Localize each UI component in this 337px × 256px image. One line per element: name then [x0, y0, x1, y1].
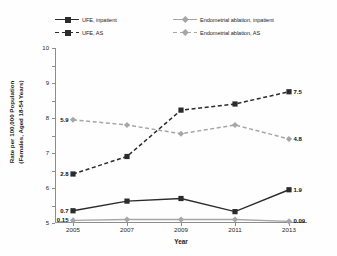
x-tick-label: 2005	[66, 226, 80, 233]
legend-item-ufe-as[interactable]: UFE, AS	[55, 26, 173, 39]
data-point-marker	[70, 217, 76, 223]
y-tick-label: 8	[46, 115, 49, 121]
x-tick-label: 2011	[228, 226, 241, 233]
data-point-marker	[232, 216, 238, 222]
legend-label: Endometrial ablation, AS	[200, 30, 260, 36]
data-point-marker	[286, 136, 292, 142]
y-axis-title: Rate per 100,000 Population (Females, Ag…	[8, 62, 25, 182]
x-tick-label: 2013	[282, 226, 296, 233]
data-point-marker	[70, 117, 76, 123]
x-tick-label: 2007	[120, 226, 134, 233]
y-axis-title-line2: (Females, Aged 18-54 Years)	[17, 80, 24, 163]
data-point-marker	[232, 209, 237, 214]
y-tick-label: 7	[46, 150, 49, 156]
x-axis-title: Year	[55, 238, 307, 245]
y-tick-label: 6	[46, 185, 49, 191]
data-point-marker	[124, 216, 130, 222]
data-point-marker	[70, 208, 75, 213]
chart-legend: UFE, inpatient Endometrial ablation, inp…	[55, 13, 325, 39]
data-point-marker	[232, 101, 237, 106]
legend-key-dash-dark-square	[55, 28, 79, 37]
data-point-marker	[286, 218, 292, 224]
data-point-label-start: 0.7	[60, 208, 68, 214]
data-point-marker	[124, 154, 129, 159]
plot-area: 012345678910 20052007200920112013 0.71.9…	[55, 48, 307, 223]
legend-key-solid-light-diamond	[173, 15, 197, 24]
legend-item-endometrial-ablation-as[interactable]: Endometrial ablation, AS	[173, 26, 325, 39]
data-point-marker	[286, 89, 291, 94]
data-point-label-start: 2.8	[60, 171, 68, 177]
data-point-marker	[178, 216, 184, 222]
chart-figure: UFE, inpatient Endometrial ablation, inp…	[0, 0, 337, 256]
data-point-marker	[124, 122, 130, 128]
data-point-label-start: 0.15	[57, 217, 69, 223]
data-point-label-end: 1.9	[294, 187, 302, 193]
data-point-marker	[286, 187, 291, 192]
data-point-marker	[232, 122, 238, 128]
legend-key-solid-dark-square	[55, 15, 79, 24]
legend-label: UFE, inpatient	[82, 17, 117, 23]
data-point-label-end: 0.09	[294, 218, 306, 224]
y-axis-title-line1: Rate per 100,000 Population	[8, 81, 15, 164]
legend-item-endometrial-ablation-inpatient[interactable]: Endometrial ablation, inpatient	[173, 13, 325, 26]
data-point-marker	[178, 131, 184, 137]
data-point-marker	[70, 171, 75, 176]
legend-key-dash-light-diamond	[173, 28, 197, 37]
legend-item-ufe-inpatient[interactable]: UFE, inpatient	[55, 13, 173, 26]
data-point-marker	[178, 196, 183, 201]
x-tick-label: 2009	[174, 226, 188, 233]
data-point-label-end: 4.8	[294, 136, 302, 142]
data-point-marker	[124, 199, 129, 204]
data-point-marker	[178, 108, 183, 113]
series-lines	[55, 48, 307, 223]
legend-label: UFE, AS	[82, 30, 103, 36]
data-point-label-end: 7.5	[294, 89, 302, 95]
y-tick-label: 9	[46, 80, 49, 86]
legend-label: Endometrial ablation, inpatient	[200, 17, 274, 23]
y-tick-label: 10	[42, 45, 49, 51]
data-point-label-start: 5.9	[60, 117, 68, 123]
y-tick-label: 5	[46, 220, 49, 226]
y-tick: 0	[52, 223, 55, 224]
